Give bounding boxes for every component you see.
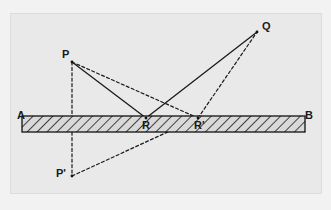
ray-P-to-R: [72, 62, 146, 118]
label-P-prime: P': [56, 168, 66, 179]
ray-Rprime-to-Q: [198, 32, 257, 118]
mirror-bar: [22, 116, 305, 132]
point-marker-pp: [71, 175, 74, 178]
label-A: A: [17, 110, 25, 121]
ray-segments-layer: [72, 32, 257, 176]
label-B: B: [305, 110, 313, 121]
point-marker-p: [71, 61, 74, 64]
diagram-canvas: [0, 0, 331, 210]
reflection-diagram-figure: A B P Q R R' P': [0, 0, 331, 210]
label-R-prime: R': [194, 120, 205, 131]
label-Q: Q: [262, 21, 271, 32]
point-marker-q: [256, 31, 259, 34]
ray-R-to-Q: [146, 32, 257, 118]
label-P: P: [62, 49, 69, 60]
label-R: R: [142, 120, 150, 131]
